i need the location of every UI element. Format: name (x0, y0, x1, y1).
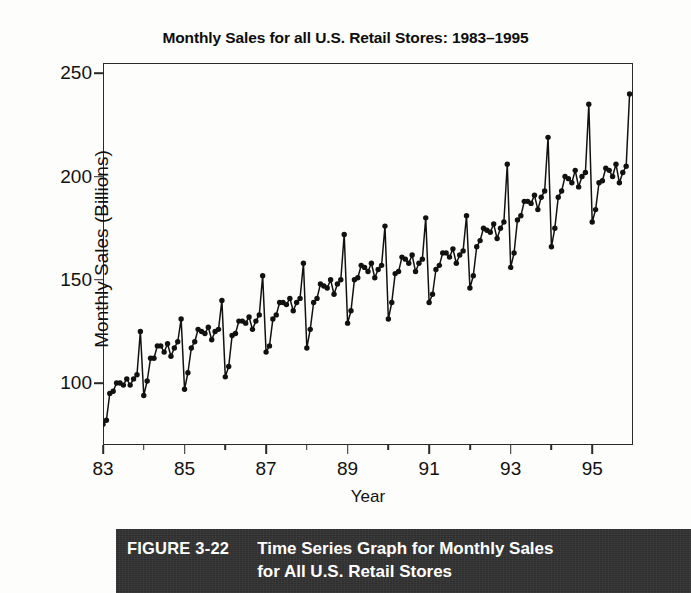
data-point (331, 292, 336, 297)
data-point (263, 349, 268, 354)
data-point (206, 325, 211, 330)
data-point (284, 302, 289, 307)
data-point (566, 176, 571, 181)
y-tick-label: 100 (60, 372, 92, 394)
data-point (430, 292, 435, 297)
data-point (189, 345, 194, 350)
data-point (413, 269, 418, 274)
data-point (301, 261, 306, 266)
data-point (260, 273, 265, 278)
data-point (216, 327, 221, 332)
x-tick-mark (551, 445, 553, 450)
x-tick-mark (265, 445, 267, 454)
data-point (178, 316, 183, 321)
data-point (175, 339, 180, 344)
x-tick-mark (591, 445, 593, 454)
data-point (297, 296, 302, 301)
y-tick-label: 200 (60, 166, 92, 188)
data-point (494, 236, 499, 241)
data-point (610, 174, 615, 179)
data-point (528, 201, 533, 206)
figure-caption-bar: FIGURE 3-22 Time Series Graph for Monthl… (116, 529, 691, 593)
x-tick-mark (306, 445, 308, 450)
data-point (406, 261, 411, 266)
data-point (168, 354, 173, 359)
x-tick-mark (143, 445, 145, 450)
data-point (325, 285, 330, 290)
data-point (511, 250, 516, 255)
data-point (515, 217, 520, 222)
data-point (253, 318, 258, 323)
data-point (379, 263, 384, 268)
data-point (437, 263, 442, 268)
data-point (243, 320, 248, 325)
data-point (583, 170, 588, 175)
y-tick-label: 150 (60, 269, 92, 291)
x-tick-label: 93 (500, 458, 521, 480)
data-point (138, 329, 143, 334)
data-point (338, 277, 343, 282)
data-point (396, 269, 401, 274)
data-point (172, 345, 177, 350)
data-point (134, 372, 139, 377)
data-point (267, 343, 272, 348)
data-point (607, 168, 612, 173)
data-point (447, 254, 452, 259)
data-point (416, 261, 421, 266)
data-point (593, 207, 598, 212)
data-point (192, 339, 197, 344)
data-point (505, 161, 510, 166)
data-point (539, 195, 544, 200)
x-tick-mark (469, 445, 471, 450)
data-point (124, 376, 129, 381)
data-point (454, 261, 459, 266)
data-point (477, 238, 482, 243)
data-point (335, 281, 340, 286)
data-point (450, 246, 455, 251)
data-point (311, 300, 316, 305)
x-tick-mark (102, 445, 104, 454)
data-point (617, 180, 622, 185)
data-point (382, 223, 387, 228)
data-point (345, 320, 350, 325)
data-point (518, 213, 523, 218)
data-point (559, 188, 564, 193)
data-point (185, 370, 190, 375)
data-point (355, 275, 360, 280)
series-line-monthly-sales (103, 63, 633, 445)
data-point (552, 225, 557, 230)
data-point (369, 261, 374, 266)
data-point (532, 192, 537, 197)
data-point (627, 91, 632, 96)
data-point (219, 298, 224, 303)
data-point (579, 174, 584, 179)
x-tick-label: 87 (255, 458, 276, 480)
data-point (348, 308, 353, 313)
data-point (375, 267, 380, 272)
data-point (569, 180, 574, 185)
x-tick-label: 85 (174, 458, 195, 480)
data-point (287, 296, 292, 301)
data-point (202, 331, 207, 336)
data-point (342, 232, 347, 237)
y-tick-mark (94, 382, 103, 384)
data-point (409, 252, 414, 257)
data-point (104, 418, 109, 423)
data-point (508, 265, 513, 270)
data-point (620, 170, 625, 175)
figure-number-label: FIGURE 3-22 (116, 537, 229, 560)
data-point (165, 341, 170, 346)
data-point (233, 331, 238, 336)
data-point (257, 312, 262, 317)
data-point (474, 244, 479, 249)
figure-container: Monthly Sales for all U.S. Retail Stores… (0, 0, 691, 593)
data-point (291, 308, 296, 313)
x-tick-mark (347, 445, 349, 454)
data-point (471, 273, 476, 278)
plot-area: Monthly Sales (Billions) 100150200250 83… (103, 63, 633, 445)
data-point (372, 275, 377, 280)
data-point (420, 256, 425, 261)
data-point (308, 327, 313, 332)
x-tick-label: 83 (92, 458, 113, 480)
x-tick-label: 95 (582, 458, 603, 480)
